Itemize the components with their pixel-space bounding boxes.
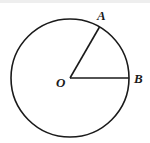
geometry-diagram: O A B — [0, 0, 150, 143]
label-a: A — [96, 8, 106, 23]
label-b: B — [133, 71, 143, 86]
radius-oa — [70, 27, 100, 78]
label-o: O — [56, 75, 66, 90]
